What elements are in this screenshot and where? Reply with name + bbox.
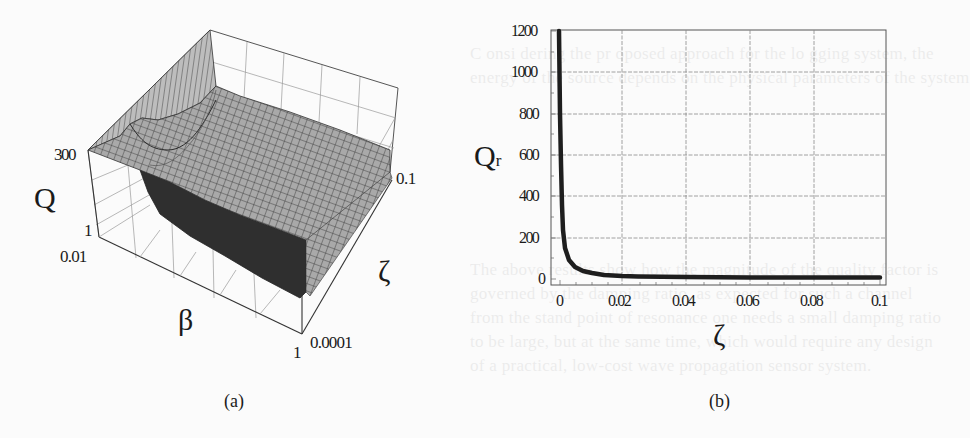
y-minor-ticks [551,31,556,279]
x-axis-label-b: ζ [713,320,725,350]
y-axis-label-main: Q [474,139,496,172]
y-tick-800: 800 [519,106,538,122]
plot-frame [551,30,886,285]
grid-horizontal [551,72,886,238]
x-tick-0: 0 [556,293,564,309]
caption-b: (b) [709,392,730,410]
x-minor-ticks [560,280,880,285]
grid-vertical [622,30,814,285]
y-tick-400: 400 [519,188,538,204]
y-tick-200: 200 [519,230,538,246]
y-axis-label-b: Qr [474,141,501,171]
y-tick-600: 600 [519,147,538,163]
x-tick-0-02: 0.02 [608,293,630,309]
data-series-qr [559,31,880,278]
y-axis-label-subscript: r [496,151,502,170]
y-tick-0: 0 [538,271,546,287]
y-tick-1200: 1200 [511,23,537,39]
x-tick-0-04: 0.04 [672,293,694,309]
y-tick-1000: 1000 [511,64,537,80]
x-tick-0-1: 0.1 [871,293,887,309]
x-tick-0-06: 0.06 [736,293,758,309]
x-tick-0-08: 0.08 [800,293,822,309]
